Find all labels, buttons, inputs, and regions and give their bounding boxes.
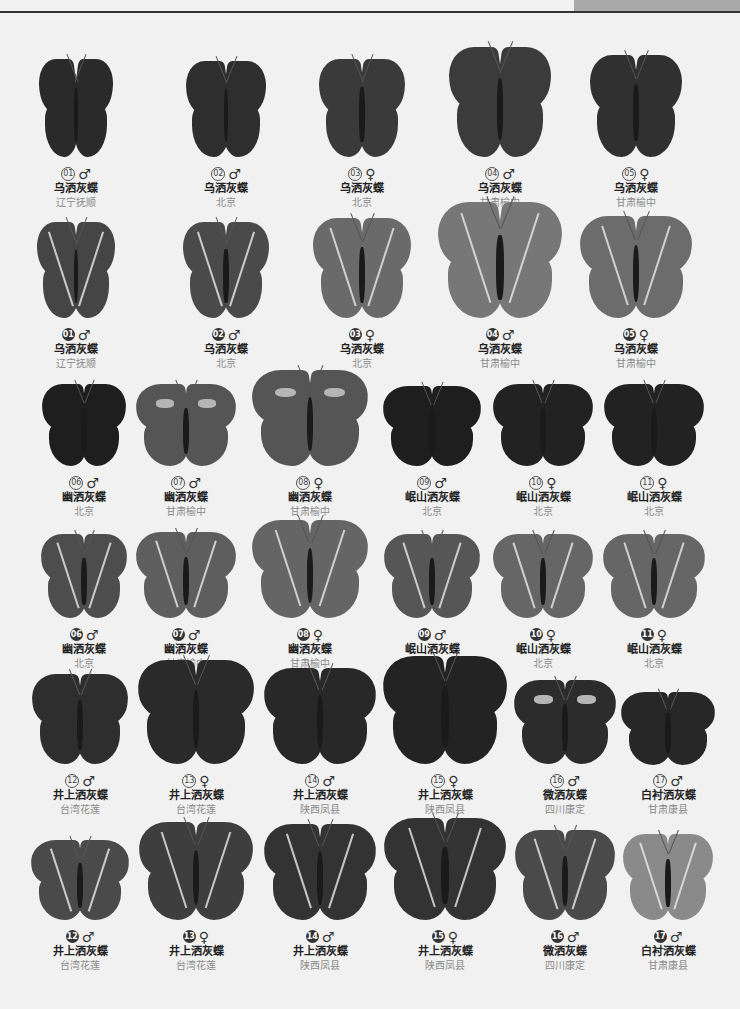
wing-shape (273, 867, 322, 920)
specimen-number-badge: 17 (653, 774, 667, 788)
collection-locality: 北京 (39, 505, 129, 519)
butterfly-body (562, 704, 568, 751)
collection-locality: 陕西凤县 (383, 803, 507, 817)
collection-locality: 四川康定 (514, 803, 616, 817)
specimen-number-badge: 11 (640, 476, 654, 490)
wing-shape (82, 421, 119, 466)
specimen-number-line: 10♀ (493, 626, 593, 642)
wing-shape (666, 725, 707, 765)
specimen-number-badge: 04 (486, 328, 499, 341)
species-name: 井上洒灰蝶 (139, 944, 253, 959)
specimen-number-badge: 06 (70, 628, 83, 641)
specimen-number-badge: 14 (306, 930, 319, 943)
male-symbol-icon: ♂ (670, 773, 683, 789)
specimen-number-badge: 10 (530, 628, 543, 641)
wing-shape (40, 714, 82, 764)
collection-locality: 北京 (181, 196, 271, 210)
specimen-card: 17♂白衬洒灰蝶甘肃康县 (621, 692, 715, 817)
wing-shape (148, 866, 198, 920)
wing-shape (501, 421, 545, 466)
butterfly-specimen-image (623, 834, 713, 922)
species-name: 井上洒灰蝶 (32, 788, 128, 803)
specimen-number-line: 13♀ (139, 928, 253, 944)
collection-locality: 北京 (603, 657, 705, 671)
collection-locality: 四川康定 (515, 959, 615, 973)
specimen-number-badge: 14 (305, 774, 319, 788)
butterfly-body (633, 245, 640, 302)
butterfly-specimen-image (438, 202, 562, 320)
specimen-number-badge: 01 (61, 167, 75, 181)
female-symbol-icon: ♀ (199, 773, 209, 789)
wing-shape (652, 421, 696, 466)
wing-shape (75, 103, 108, 157)
specimen-card: 14♂井上洒灰蝶陕西凤县 (264, 824, 376, 973)
butterfly-specimen-image (136, 384, 236, 468)
butterfly-specimen-image (138, 660, 254, 766)
butterfly-specimen-image (384, 818, 506, 922)
collection-locality: 甘肃榆中 (252, 505, 368, 519)
species-name: 乌洒灰蝶 (317, 181, 407, 196)
female-symbol-icon: ♀ (313, 475, 323, 491)
species-name: 乌洒灰蝶 (181, 342, 271, 357)
male-symbol-icon: ♂ (322, 929, 335, 945)
specimen-number-badge: 06 (69, 476, 83, 490)
wing-shape (393, 704, 448, 763)
male-symbol-icon: ♂ (502, 327, 515, 343)
butterfly-specimen-image (603, 534, 705, 620)
specimen-number-badge: 08 (296, 476, 310, 490)
species-name: 岷山洒灰蝶 (603, 642, 705, 657)
specimen-number-badge: 04 (485, 167, 499, 181)
species-name: 乌洒灰蝶 (313, 342, 411, 357)
collection-locality: 甘肃榆中 (438, 357, 562, 371)
wing-shape (629, 725, 670, 765)
wing-shape (652, 572, 697, 618)
female-symbol-icon: ♀ (657, 627, 667, 643)
female-symbol-icon: ♀ (546, 475, 556, 491)
wing-shape (194, 866, 244, 920)
specimen-card: 13♀井上洒灰蝶台湾花莲 (138, 660, 254, 817)
wing-shape (45, 103, 78, 157)
specimen-card: 11♀岷山洒灰蝶北京 (603, 534, 705, 671)
collection-locality: 北京 (39, 657, 129, 671)
butterfly-body (633, 84, 639, 141)
specimen-number-line: 12♂ (32, 772, 128, 788)
butterfly-body (317, 695, 324, 749)
male-symbol-icon: ♂ (82, 773, 95, 789)
wing-shape (443, 864, 497, 920)
specimen-number-badge: 05 (622, 167, 636, 181)
wing-shape (360, 263, 403, 318)
wing-shape (522, 718, 567, 764)
specimen-card: 06♂幽洒灰蝶北京 (39, 384, 129, 519)
specimen-number-badge: 09 (417, 476, 431, 490)
specimen-number-badge: 13 (182, 774, 196, 788)
wing-shape (443, 704, 498, 763)
specimen-number-line: 04♂ (438, 326, 562, 342)
forewing-patch (198, 399, 216, 407)
specimen-number-line: 17♂ (621, 772, 715, 788)
butterfly-specimen-image (39, 59, 113, 159)
species-name: 白衬洒灰蝶 (621, 788, 715, 803)
male-symbol-icon: ♂ (86, 475, 99, 491)
female-symbol-icon: ♀ (448, 773, 458, 789)
species-name: 幽洒灰蝶 (39, 490, 129, 505)
specimen-card: 01♂乌洒灰蝶辽宁抚顺 (31, 59, 121, 210)
species-name: 幽洒灰蝶 (252, 490, 368, 505)
species-name: 微洒灰蝶 (515, 944, 615, 959)
wing-shape (49, 421, 86, 466)
male-symbol-icon: ♂ (82, 929, 95, 945)
butterfly-specimen-image (384, 534, 480, 620)
wing-shape (74, 265, 108, 318)
wing-shape (147, 707, 198, 764)
wing-shape (430, 572, 472, 618)
male-symbol-icon: ♂ (228, 327, 241, 343)
species-name: 幽洒灰蝶 (136, 490, 236, 505)
specimen-number-badge: 15 (431, 774, 445, 788)
species-name: 井上洒灰蝶 (31, 944, 129, 959)
specimen-card: 10♀岷山洒灰蝶北京 (493, 384, 593, 519)
specimen-number-badge: 01 (62, 328, 75, 341)
butterfly-body (193, 850, 200, 905)
wing-shape (224, 104, 259, 157)
specimen-number-badge: 13 (183, 930, 196, 943)
specimen-number-line: 14♂ (264, 928, 376, 944)
butterfly-specimen-image (493, 534, 593, 620)
